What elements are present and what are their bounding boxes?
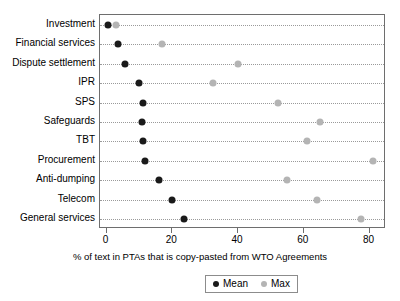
data-point-mean — [115, 41, 122, 48]
data-point-max — [304, 138, 311, 145]
legend-marker-mean-icon — [213, 281, 219, 287]
y-axis-label-tbt: TBT — [0, 135, 95, 145]
y-axis-label-anti-dumping: Anti-dumping — [0, 174, 95, 184]
data-point-max — [235, 60, 242, 67]
legend-label-max: Max — [271, 278, 290, 290]
y-axis-label-safeguards: Safeguards — [0, 116, 95, 126]
data-point-mean — [139, 138, 146, 145]
gridline — [100, 25, 384, 26]
data-point-max — [313, 196, 320, 203]
data-point-mean — [141, 157, 148, 164]
data-point-max — [274, 99, 281, 106]
gridline — [100, 180, 384, 181]
legend-item-mean: Mean — [213, 278, 248, 290]
data-point-mean — [104, 21, 111, 28]
x-tick — [171, 228, 172, 233]
y-axis-label-dispute-settlement: Dispute settlement — [0, 58, 95, 68]
plot-area — [100, 15, 384, 227]
x-tick — [369, 228, 370, 233]
y-axis-label-ipr: IPR — [0, 77, 95, 87]
data-point-mean — [169, 196, 176, 203]
data-point-mean — [121, 60, 128, 67]
x-tick-label: 60 — [297, 234, 308, 245]
data-point-max — [369, 157, 376, 164]
x-tick-label: 40 — [232, 234, 243, 245]
y-axis-label-investment: Investment — [0, 19, 95, 29]
plot-frame — [99, 14, 385, 228]
data-point-max — [159, 41, 166, 48]
data-point-max — [113, 21, 120, 28]
data-point-mean — [180, 216, 187, 223]
x-axis-title: % of text in PTAs that is copy-pasted fr… — [0, 251, 400, 263]
y-axis-label-financial-services: Financial services — [0, 38, 95, 48]
x-tick-label: 20 — [166, 234, 177, 245]
data-point-mean — [136, 80, 143, 87]
data-point-max — [284, 177, 291, 184]
chart-legend: Mean Max — [205, 275, 298, 293]
data-point-mean — [156, 177, 163, 184]
y-axis-label-telecom: Telecom — [0, 194, 95, 204]
x-tick — [303, 228, 304, 233]
data-point-max — [358, 216, 365, 223]
legend-label-mean: Mean — [223, 278, 248, 290]
data-point-mean — [139, 119, 146, 126]
data-point-mean — [139, 99, 146, 106]
x-tick-label: 0 — [103, 234, 109, 245]
legend-item-max: Max — [261, 278, 290, 290]
gridline — [100, 44, 384, 45]
y-axis-label-sps: SPS — [0, 97, 95, 107]
gridline — [100, 200, 384, 201]
data-point-max — [210, 80, 217, 87]
x-tick — [237, 228, 238, 233]
y-axis-label-general-services: General services — [0, 213, 95, 223]
gridline — [100, 219, 384, 220]
y-axis-label-procurement: Procurement — [0, 155, 95, 165]
chart-figure: InvestmentFinancial servicesDispute sett… — [0, 0, 400, 301]
x-tick — [106, 228, 107, 233]
x-tick-label: 80 — [363, 234, 374, 245]
legend-marker-max-icon — [261, 281, 267, 287]
gridline — [100, 64, 384, 65]
data-point-max — [317, 119, 324, 126]
